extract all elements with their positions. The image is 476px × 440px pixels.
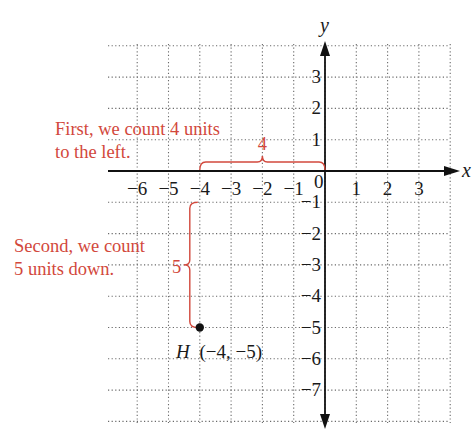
- y-tick-label: −3: [301, 254, 321, 275]
- point-label: H (−4, −5): [175, 341, 262, 363]
- y-tick-label: −5: [301, 317, 321, 338]
- x-tick-label: 3: [414, 178, 424, 199]
- y-tick-label: −7: [301, 379, 321, 400]
- y-axis-label: y: [318, 14, 329, 37]
- x-axis-arrow-icon: [444, 166, 460, 176]
- x-tick-labels: −6−5−4−3−2−1123: [127, 178, 424, 199]
- horizontal-note-line-2: to the left.: [55, 142, 131, 162]
- y-tick-label: 2: [312, 97, 322, 118]
- point-name: H: [175, 341, 191, 362]
- x-tick-label: 2: [383, 178, 393, 199]
- vertical-brace-label: 5: [172, 257, 181, 277]
- vertical-note-line-2: 5 units down.: [14, 259, 114, 279]
- horizontal-step-note: First, we count 4 units to the left.: [55, 119, 225, 162]
- x-axis-label: x: [461, 159, 471, 181]
- point-coordinates: (−4, −5): [199, 341, 262, 363]
- x-tick-label: −4: [190, 178, 211, 199]
- x-tick-label: −3: [221, 178, 241, 199]
- x-tick-label: 1: [352, 178, 362, 199]
- y-tick-label: −1: [301, 191, 321, 212]
- vertical-note-line-1: Second, we count: [14, 236, 146, 256]
- horizontal-note-line-1: First, we count 4 units: [55, 119, 220, 139]
- origin-label: 0: [314, 171, 324, 192]
- y-tick-label: −2: [301, 223, 321, 244]
- x-tick-label: −2: [252, 178, 272, 199]
- y-tick-label: −4: [301, 285, 322, 306]
- coordinate-plane: x y 0 −6−5−4−3−2−1123 321−1−2−3−4−5−6−7 …: [0, 0, 476, 440]
- y-tick-label: 3: [312, 66, 322, 87]
- y-tick-label: 1: [312, 129, 322, 150]
- vertical-step-note: Second, we count 5 units down.: [14, 236, 150, 279]
- y-axis-up-arrow-icon: [320, 41, 330, 56]
- point-marker: [196, 323, 204, 331]
- coordinate-plane-figure: x y 0 −6−5−4−3−2−1123 321−1−2−3−4−5−6−7 …: [0, 0, 476, 440]
- x-tick-label: −6: [127, 178, 147, 199]
- axes: x y 0: [108, 14, 471, 429]
- horizontal-brace-label: 4: [258, 134, 267, 154]
- y-tick-label: −6: [301, 348, 321, 369]
- plotted-point-h: H (−4, −5): [175, 323, 262, 363]
- grid: [108, 44, 450, 423]
- y-tick-labels: 321−1−2−3−4−5−6−7: [301, 66, 322, 400]
- x-tick-label: −5: [158, 178, 178, 199]
